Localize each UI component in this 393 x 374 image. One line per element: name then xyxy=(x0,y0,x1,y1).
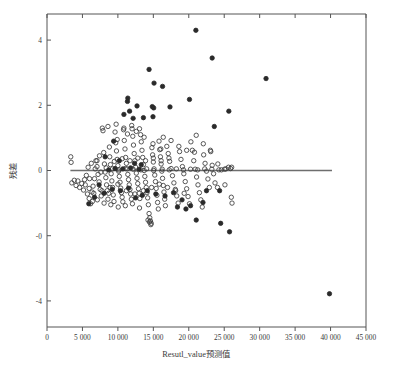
scatter-point xyxy=(108,162,112,166)
scatter-point xyxy=(132,161,136,165)
scatter-point xyxy=(153,173,157,177)
scatter-point xyxy=(154,192,158,196)
x-tick-label: 40 000 xyxy=(320,333,341,342)
scatter-point xyxy=(184,187,188,191)
scatter-point xyxy=(180,198,184,202)
scatter-point xyxy=(114,149,118,153)
scatter-point xyxy=(161,135,165,139)
scatter-point xyxy=(160,176,164,180)
scatter-point xyxy=(128,192,132,196)
scatter-point xyxy=(216,162,220,166)
scatter-point xyxy=(125,99,129,103)
scatter-point xyxy=(136,187,140,191)
scatter-point xyxy=(230,201,234,205)
y-tick-label: -4 xyxy=(36,297,42,306)
scatter-point xyxy=(227,230,231,234)
scatter-point xyxy=(201,200,205,204)
scatter-point xyxy=(183,179,187,183)
scatter-point xyxy=(142,135,146,139)
scatter-point xyxy=(116,205,120,209)
scatter-point xyxy=(169,138,173,142)
scatter-point xyxy=(69,160,73,164)
x-tick-label: 5 000 xyxy=(74,333,91,342)
x-tick-label: 30 000 xyxy=(250,333,271,342)
x-tick-label: 35 000 xyxy=(285,333,306,342)
scatter-point xyxy=(211,172,215,176)
x-axis-title: Resutl_value预测值 xyxy=(162,349,231,359)
scatter-point xyxy=(147,211,151,215)
x-tick-label: 20 000 xyxy=(179,333,200,342)
scatter-point xyxy=(223,183,227,187)
scatter-point xyxy=(111,193,115,197)
scatter-point xyxy=(103,155,107,159)
scatter-point xyxy=(137,206,141,210)
scatter-point xyxy=(123,204,127,208)
scatter-point xyxy=(91,184,95,188)
scatter-point xyxy=(130,202,134,206)
scatter-point xyxy=(102,191,106,195)
scatter-point xyxy=(81,188,85,192)
scatter-point xyxy=(110,187,114,191)
scatter-point xyxy=(165,144,169,148)
scatter-point xyxy=(184,207,188,211)
scatter-point xyxy=(126,177,130,181)
scatter-point xyxy=(168,105,172,109)
scatter-points xyxy=(69,28,332,296)
scatter-point xyxy=(206,177,210,181)
scatter-point xyxy=(118,189,122,193)
scatter-point xyxy=(110,179,114,183)
scatter-point xyxy=(102,150,106,154)
scatter-point xyxy=(151,106,155,110)
scatter-point xyxy=(175,205,179,209)
scatter-point xyxy=(102,201,106,205)
scatter-point xyxy=(87,176,91,180)
scatter-point xyxy=(133,196,137,200)
scatter-point xyxy=(155,200,159,204)
scatter-point xyxy=(186,194,190,198)
scatter-point xyxy=(127,109,131,113)
scatter-point xyxy=(114,122,118,126)
scatter-point xyxy=(104,175,108,179)
x-tick-label: 15 000 xyxy=(143,333,164,342)
scatter-point xyxy=(136,156,140,160)
scatter-point xyxy=(203,161,207,165)
scatter-point xyxy=(152,81,156,85)
scatter-point xyxy=(200,205,204,209)
scatter-point xyxy=(189,140,193,144)
scatter-point xyxy=(126,172,130,176)
scatter-point xyxy=(106,197,110,201)
scatter-point xyxy=(106,124,110,128)
scatter-point xyxy=(143,159,147,163)
scatter-point xyxy=(137,167,141,171)
x-tick-label: 25 000 xyxy=(214,333,235,342)
scatter-point xyxy=(145,189,149,193)
y-tick-label: 0 xyxy=(38,166,42,175)
scatter-point xyxy=(108,155,112,159)
scatter-point xyxy=(165,185,169,189)
scatter-point xyxy=(157,139,161,143)
scatter-point xyxy=(122,138,126,142)
scatter-point xyxy=(194,218,198,222)
scatter-point xyxy=(218,221,222,225)
scatter-point xyxy=(125,132,129,136)
scatter-point xyxy=(204,189,208,193)
scatter-point xyxy=(172,181,176,185)
scatter-point xyxy=(184,148,188,152)
scatter-point xyxy=(210,56,214,60)
scatter-point xyxy=(86,165,90,169)
scatter-point xyxy=(160,84,164,88)
scatter-point xyxy=(192,159,196,163)
scatter-point xyxy=(143,180,147,184)
scatter-point xyxy=(163,194,167,198)
y-tick-label: 2 xyxy=(38,101,42,110)
x-tick-label: 45 000 xyxy=(356,333,377,342)
scatter-point xyxy=(123,147,127,151)
scatter-point xyxy=(147,67,151,71)
scatter-point xyxy=(92,176,96,180)
scatter-point xyxy=(111,139,115,143)
scatter-point xyxy=(170,174,174,178)
scatter-point xyxy=(177,144,181,148)
x-axis-ticks: 05 00010 00015 00020 00025 00030 00035 0… xyxy=(45,14,376,342)
scatter-point xyxy=(166,151,170,155)
scatter-point xyxy=(109,203,113,207)
